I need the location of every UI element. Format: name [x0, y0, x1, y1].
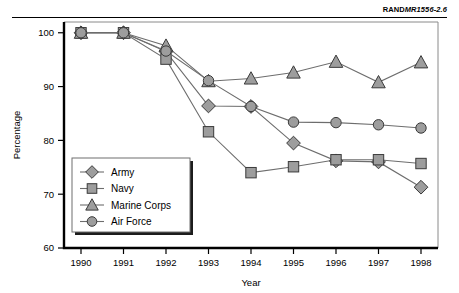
x-axis-title: Year [241, 277, 260, 288]
header-rule [12, 17, 447, 18]
data-point [416, 123, 426, 133]
data-point [287, 66, 301, 78]
legend-label: Navy [111, 183, 134, 194]
figure-number-prefix: RAND [383, 5, 405, 14]
y-axis-title: Percentage [11, 111, 22, 160]
chart-legend: ArmyNavyMarine CorpsAir Force [72, 158, 193, 235]
data-point [373, 120, 383, 130]
data-point [414, 56, 428, 68]
data-point [414, 180, 428, 194]
data-point [288, 162, 298, 172]
y-tick-label: 70 [43, 189, 54, 200]
data-point [203, 75, 213, 85]
data-point [331, 155, 341, 165]
data-point [329, 55, 343, 67]
data-point [246, 167, 256, 177]
x-tick-label: 1997 [368, 257, 389, 268]
data-point [416, 158, 426, 168]
data-point [203, 127, 213, 137]
data-point [331, 117, 341, 127]
x-tick-label: 1995 [283, 257, 304, 268]
y-tick-label: 90 [43, 81, 54, 92]
figure-container: RANDMR1556-2.6 6070809010019901991199219… [0, 0, 459, 293]
x-tick-label: 1991 [113, 257, 134, 268]
x-tick-label: 1998 [410, 257, 431, 268]
figure-number: RANDMR1556-2.6 [383, 5, 447, 14]
data-point [372, 76, 386, 88]
x-tick-label: 1992 [155, 257, 176, 268]
data-point [288, 117, 298, 127]
data-point [373, 155, 383, 165]
legend-label: Air Force [111, 216, 152, 227]
data-point [161, 46, 171, 56]
data-point [118, 28, 128, 38]
x-tick-label: 1993 [198, 257, 219, 268]
line-chart: 6070809010019901991199219931994199519961… [0, 0, 459, 293]
legend-marker [87, 184, 97, 194]
y-tick-label: 100 [38, 27, 54, 38]
figure-number-id: MR1556-2.6 [405, 5, 447, 14]
data-point [202, 99, 216, 113]
legend-label: Army [111, 167, 134, 178]
legend-label: Marine Corps [111, 200, 171, 211]
x-tick-label: 1996 [325, 257, 346, 268]
y-tick-label: 60 [43, 242, 54, 253]
x-tick-label: 1994 [240, 257, 261, 268]
data-point [246, 101, 256, 111]
x-tick-label: 1990 [70, 257, 91, 268]
y-tick-label: 80 [43, 135, 54, 146]
legend-marker [87, 217, 97, 227]
data-point [76, 28, 86, 38]
